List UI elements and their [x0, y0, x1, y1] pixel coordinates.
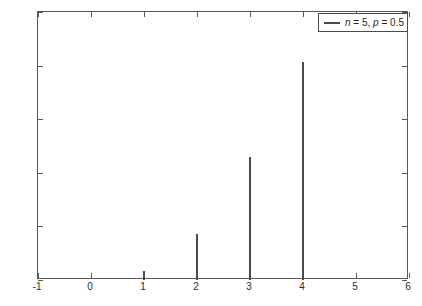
- legend-mid-text: = 5,: [351, 17, 374, 28]
- y-tick-mark-right: [402, 173, 407, 174]
- stem-bar: [143, 271, 145, 280]
- x-tick-label: 1: [140, 282, 146, 292]
- plot-area: [37, 11, 408, 279]
- y-tick-mark: [38, 280, 43, 281]
- stem-bar: [302, 62, 304, 280]
- x-tick-label: 4: [299, 282, 305, 292]
- x-tick-mark-top: [91, 12, 92, 17]
- y-tick-mark-right: [402, 226, 407, 227]
- y-tick-mark-right: [402, 66, 407, 67]
- x-tick-mark: [409, 273, 410, 278]
- x-tick-label: 3: [246, 282, 252, 292]
- x-tick-mark-top: [250, 12, 251, 17]
- y-tick-mark: [38, 66, 43, 67]
- stem-bar: [249, 157, 251, 280]
- legend-box[interactable]: n = 5, p = 0.5: [318, 13, 408, 32]
- stem-bar: [196, 234, 198, 280]
- x-tick-label: 2: [193, 282, 199, 292]
- y-tick-mark-right: [402, 280, 407, 281]
- figure-canvas: 00.050.10.150.20.25 -10123456 n = 5, p =…: [0, 0, 422, 306]
- x-tick-mark-top: [144, 12, 145, 17]
- x-tick-mark: [38, 273, 39, 278]
- x-tick-label: 5: [352, 282, 358, 292]
- x-tick-mark-top: [38, 12, 39, 17]
- x-tick-mark-top: [409, 12, 410, 17]
- x-tick-mark-top: [197, 12, 198, 17]
- legend-entry-label: n = 5, p = 0.5: [345, 17, 404, 28]
- legend-line-swatch: [324, 22, 340, 24]
- x-tick-label: 6: [405, 282, 411, 292]
- y-tick-mark-right: [402, 119, 407, 120]
- x-tick-label: 0: [87, 282, 93, 292]
- x-tick-mark: [356, 273, 357, 278]
- x-tick-mark: [91, 273, 92, 278]
- x-tick-mark-top: [303, 12, 304, 17]
- y-tick-mark: [38, 173, 43, 174]
- x-tick-label: -1: [33, 282, 42, 292]
- y-tick-mark: [38, 119, 43, 120]
- y-tick-mark: [38, 226, 43, 227]
- legend-suffix-text: = 0.5: [379, 17, 404, 28]
